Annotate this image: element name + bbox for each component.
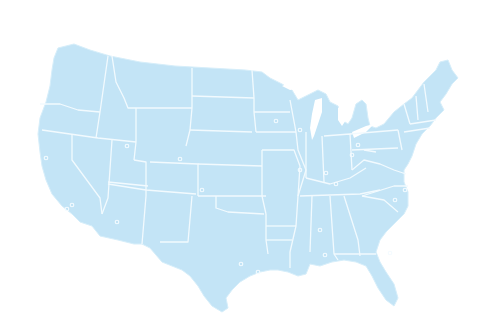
city-marker [388, 251, 392, 255]
us-landmass [38, 44, 458, 312]
lake-superior [282, 76, 320, 90]
us-map-svg [0, 0, 486, 331]
us-map [0, 0, 486, 331]
